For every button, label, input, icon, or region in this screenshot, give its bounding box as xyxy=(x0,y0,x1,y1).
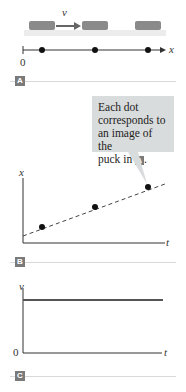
panel-label-b: B xyxy=(15,257,25,267)
x-axis-label: t xyxy=(164,346,167,358)
data-point-1 xyxy=(39,224,45,230)
data-point-3 xyxy=(145,184,151,190)
origin-label: 0 xyxy=(13,346,19,358)
velocity-time-graph xyxy=(0,280,186,360)
data-point-2 xyxy=(92,204,98,210)
position-time-graph xyxy=(0,170,186,250)
y-axis-label: x xyxy=(19,166,24,178)
x-axis-label: t xyxy=(166,236,169,248)
y-axis-label: v xyxy=(19,280,24,292)
separator xyxy=(10,376,176,377)
panel-label-c: C xyxy=(15,371,25,381)
separator xyxy=(10,262,176,263)
